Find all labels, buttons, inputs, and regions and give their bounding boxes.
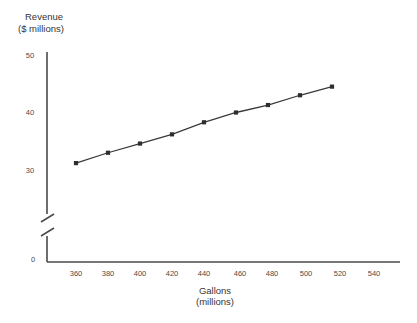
y-tick-label-50: 50 [26,51,34,60]
data-point-360 [74,161,78,165]
y-axis-label-line1: Revenue [25,11,63,22]
data-point-380 [106,151,110,155]
y-tick-label-0: 0 [31,255,35,264]
x-tick-label-400: 400 [134,269,147,278]
revenue-vs-gallons-chart: Revenue ($ millions) 50 40 30 0 360 380 … [0,0,417,323]
data-point-480 [266,103,270,107]
y-tick-label-40: 40 [26,108,34,117]
data-point-440 [202,120,206,124]
x-tick-label-440: 440 [198,269,211,278]
y-tick-label-30: 30 [26,166,34,175]
data-point-500 [298,93,302,97]
x-tick-label-500: 500 [300,269,313,278]
x-tick-label-460: 460 [234,269,247,278]
data-point-520 [330,85,334,89]
y-axis-label-line2: ($ millions) [18,23,64,34]
x-tick-label-360: 360 [70,269,83,278]
axis-break-slash-lower [41,228,54,236]
x-tick-label-520: 520 [334,269,347,278]
x-tick-label-540: 540 [368,269,381,278]
page-bottom-text-fragment: ___ __ _ _ _ _ _ _ _ [4,317,154,323]
data-point-460 [234,110,238,114]
x-tick-label-380: 380 [102,269,115,278]
chart-canvas: Revenue ($ millions) 50 40 30 0 360 380 … [0,0,417,323]
x-tick-label-420: 420 [166,269,179,278]
data-point-420 [170,132,174,136]
data-point-400 [138,141,142,145]
revenue-series-line [76,87,332,163]
axis-break-slash-upper [41,214,54,222]
x-axis-label-line2: (millions) [196,296,234,307]
x-tick-label-480: 480 [266,269,279,278]
x-axis-label-line1: Gallons [199,285,231,296]
